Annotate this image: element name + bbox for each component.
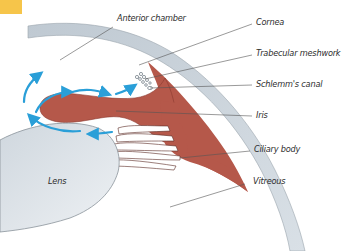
label-cornea: Cornea <box>256 17 284 27</box>
trabecular-meshwork-shape <box>135 72 152 89</box>
label-vitreous: Vitreous <box>253 176 285 186</box>
label-schlemms-canal: Schlemm's canal <box>256 79 322 89</box>
label-trabecular-meshwork: Trabecular meshwork <box>256 48 340 58</box>
label-iris: Iris <box>256 110 268 120</box>
label-ciliary-body: Ciliary body <box>254 144 300 154</box>
label-anterior-chamber: Anterior chamber <box>117 13 186 23</box>
eye-anatomy-diagram <box>0 0 356 251</box>
label-lens: Lens <box>48 176 66 186</box>
